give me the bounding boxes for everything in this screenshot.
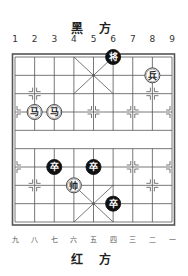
piece-label: 将	[109, 51, 118, 62]
file-number: 九	[7, 234, 23, 244]
piece-label: 帅	[69, 180, 78, 191]
file-number: 一	[164, 234, 180, 244]
file-number: 七	[46, 234, 62, 244]
piece-label: 马	[50, 107, 59, 117]
red-horse-piece[interactable]: 马	[47, 105, 62, 120]
piece-label: 卒	[89, 161, 98, 172]
black-soldier-piece[interactable]: 卒	[106, 196, 121, 211]
file-number: 五	[86, 234, 102, 244]
piece-label: 卒	[50, 161, 59, 172]
red-side-label: 红 方	[0, 250, 188, 267]
black-soldier-piece[interactable]: 卒	[86, 160, 101, 175]
red-soldier-piece[interactable]: 兵	[145, 68, 160, 83]
black-soldier-piece[interactable]: 卒	[47, 160, 62, 175]
bottom-file-numbers: 九八七六五四三二一	[0, 234, 188, 246]
file-number: 三	[125, 234, 141, 244]
red-horse-piece[interactable]: 马	[27, 105, 42, 120]
file-number: 四	[105, 234, 121, 244]
file-number: 二	[144, 234, 160, 244]
black-general-piece[interactable]: 将	[106, 50, 121, 65]
piece-label: 马	[30, 107, 39, 117]
piece-label: 兵	[148, 70, 157, 81]
red-general-piece[interactable]: 帅	[66, 178, 81, 193]
file-number: 六	[66, 234, 82, 244]
piece-label: 卒	[109, 198, 118, 209]
file-number: 八	[27, 234, 43, 244]
